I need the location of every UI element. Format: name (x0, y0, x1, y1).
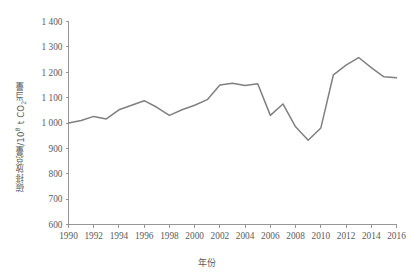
x-tick-label: 1996 (135, 231, 154, 241)
y-tick-label: 600 (49, 220, 63, 230)
x-tick-label: 2000 (185, 231, 204, 241)
data-series-group (69, 58, 397, 141)
x-axis-group: 1990199219941996199820002002200420062008… (59, 225, 406, 241)
y-tick-label: 1 000 (42, 118, 63, 128)
x-tick-label: 1998 (160, 231, 179, 241)
series-line-carbon-emissions (69, 58, 397, 141)
y-axis-title-subscript: 2 (20, 101, 27, 105)
x-tick-label: 2008 (286, 231, 305, 241)
y-axis-title-suffix: 当量 (16, 82, 26, 100)
y-tick-label: 1 300 (42, 42, 63, 52)
y-axis-title-middle: t CO (16, 105, 26, 128)
x-tick-label: 2010 (312, 231, 331, 241)
y-tick-label: 900 (49, 144, 63, 154)
y-tick-label: 800 (49, 169, 63, 179)
carbon-emissions-line-chart: 6007008009001 0001 1001 2001 3001 400 19… (0, 0, 413, 274)
y-axis-title-prefix: 碳排放总量/10 (16, 131, 26, 191)
y-axis-title-exponent: 8 (14, 127, 21, 131)
x-tick-label: 2016 (387, 231, 406, 241)
y-axis-group: 6007008009001 0001 1001 2001 3001 400 (42, 17, 69, 230)
x-tick-label: 2002 (211, 231, 230, 241)
y-axis-title: 碳排放总量/108 t CO2当量 (15, 82, 28, 192)
x-tick-label: 2012 (337, 231, 356, 241)
x-tick-label: 2006 (261, 231, 280, 241)
x-tick-label: 1994 (110, 231, 129, 241)
x-tick-label: 2014 (362, 231, 381, 241)
x-tick-label: 1992 (84, 231, 103, 241)
y-tick-label: 1 400 (42, 17, 63, 27)
chart-plot-area: 6007008009001 0001 1001 2001 3001 400 19… (0, 0, 413, 274)
y-axis-tick-labels: 6007008009001 0001 1001 2001 3001 400 (42, 17, 63, 230)
y-axis-title-wrapper: 碳排放总量/108 t CO2当量 (10, 0, 32, 274)
x-tick-label: 2004 (236, 231, 255, 241)
x-axis-title: 年份 (0, 256, 413, 269)
x-tick-label: 1990 (59, 231, 78, 241)
y-tick-label: 1 200 (42, 68, 63, 78)
y-tick-label: 700 (49, 194, 63, 204)
y-tick-label: 1 100 (42, 93, 63, 103)
x-axis-tick-labels: 1990199219941996199820002002200420062008… (59, 231, 406, 241)
